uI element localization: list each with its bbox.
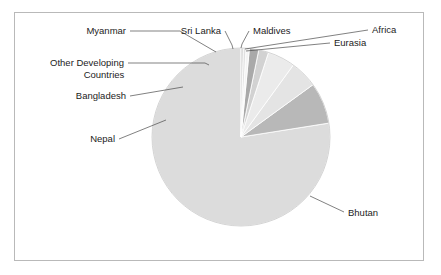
pie-chart-figure: Myanmar Sri Lanka Maldives Africa Eurasi… — [0, 0, 441, 275]
pie-label-sri-lanka: Sri Lanka — [181, 25, 222, 36]
pie-label-maldives: Maldives — [253, 25, 291, 36]
pie-label-africa: Africa — [372, 24, 397, 35]
pie-label-other-developing-line2: Countries — [84, 69, 125, 80]
pie-label-myanmar: Myanmar — [86, 25, 126, 36]
pie-label-nepal: Nepal — [90, 133, 115, 144]
pie-label-bhutan: Bhutan — [348, 207, 378, 218]
pie-slices-group — [152, 48, 330, 226]
leader-line-maldives — [241, 31, 249, 48]
pie-chart-canvas: Myanmar Sri Lanka Maldives Africa Eurasi… — [0, 0, 441, 275]
leader-line-bhutan — [310, 196, 344, 212]
pie-label-eurasia: Eurasia — [334, 37, 367, 48]
pie-label-other-developing-line1: Other Developing — [50, 57, 124, 68]
leader-line-sri-lanka — [225, 31, 233, 49]
pie-label-bangladesh: Bangladesh — [76, 90, 126, 101]
